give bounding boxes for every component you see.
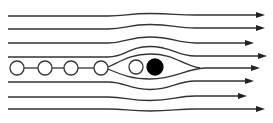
streamline-2 (8, 25, 259, 30)
open-particle-3 (64, 61, 78, 75)
arrow-icon (258, 53, 267, 59)
streamline-7 (8, 109, 259, 111)
streamline-5 (8, 81, 248, 90)
arrow-icon (256, 106, 265, 112)
open-particle-5 (129, 60, 143, 74)
filled-particle (147, 59, 163, 75)
arrow-icon (245, 40, 254, 46)
streamline-diagram (0, 0, 273, 123)
diagram-canvas (0, 0, 273, 123)
arrow-icon (256, 25, 265, 31)
streamline-6 (8, 96, 241, 101)
arrow-icon (245, 78, 254, 84)
arrow-icon (256, 12, 265, 18)
open-particle-1 (10, 61, 24, 75)
arrow-icon (238, 93, 247, 99)
streamline-3 (8, 37, 248, 43)
streamline-1 (8, 14, 259, 17)
arrow-icon (251, 65, 260, 71)
open-particle-2 (38, 61, 52, 75)
open-particle-4 (94, 61, 108, 75)
